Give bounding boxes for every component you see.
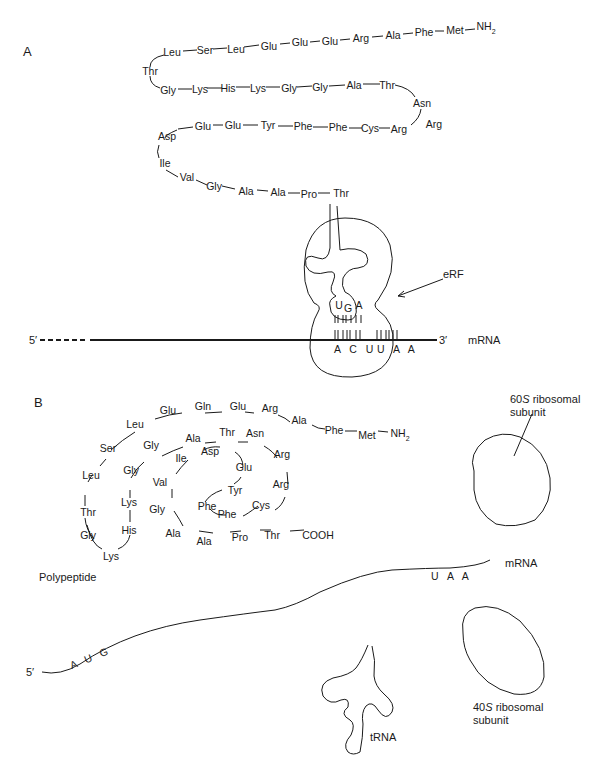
residue: Arg: [353, 33, 369, 44]
residue: Gly: [160, 85, 176, 96]
residue: Lys: [192, 84, 208, 95]
residue: Arg: [273, 479, 289, 490]
residue: Ala: [291, 415, 306, 426]
panel-b-label: B: [34, 395, 43, 410]
residue: His: [121, 525, 136, 536]
residue: Thr: [219, 427, 235, 438]
mrna-label: mRNA: [468, 334, 500, 347]
residue: Glu: [195, 121, 211, 132]
residue: Ser: [100, 443, 116, 454]
residue: Cys: [361, 123, 379, 134]
erf-base: G: [344, 303, 352, 314]
c-terminus: COOH: [302, 530, 334, 541]
large-subunit-label: 60S ribosomal subunit: [510, 393, 580, 419]
polypeptide-label: Polypeptide: [39, 571, 97, 584]
residue: Gly: [281, 83, 297, 94]
residue: Leu: [163, 47, 181, 58]
residue: Gly: [80, 530, 96, 541]
residue: Tyr: [228, 485, 243, 496]
erf-label: eRF: [443, 268, 464, 281]
residue: Thr: [142, 66, 158, 77]
five-prime-label: 5′: [29, 334, 37, 347]
residue: Glu: [292, 37, 308, 48]
residue: Glu: [322, 36, 338, 47]
panel-a-label: A: [23, 44, 32, 59]
codon-acu: A C U: [334, 343, 376, 355]
residue: Glu: [225, 120, 241, 131]
residue: Ala: [346, 80, 361, 91]
residue: Lys: [121, 497, 137, 508]
mrna-label-b: mRNA: [505, 557, 537, 570]
residue: Glu: [160, 405, 176, 416]
residue: Arg: [274, 449, 290, 460]
residue: Phe: [329, 122, 348, 133]
residue: Thr: [80, 507, 96, 518]
residue: Pro: [301, 189, 317, 200]
residue: Ala: [196, 536, 211, 547]
diagram-line-art: [0, 0, 606, 757]
small-subunit-label: 40S ribosomal subunit: [473, 701, 543, 727]
residue: Phe: [325, 425, 344, 436]
residue: Arg: [262, 403, 278, 414]
residue: Ile: [175, 453, 186, 464]
residue: Gly: [143, 440, 159, 451]
residue: Cys: [252, 500, 270, 511]
residue: Lys: [250, 83, 266, 94]
trna-label: tRNA: [370, 731, 396, 744]
stop-codon-uaa: U A A: [377, 343, 418, 355]
residue: Ala: [185, 433, 200, 444]
residue: Gly: [206, 181, 222, 192]
residue: Arg: [391, 124, 407, 135]
residue: Gly: [123, 465, 139, 476]
residue: Ala: [165, 528, 180, 539]
residue: Phe: [415, 27, 434, 38]
residue: Ser: [197, 45, 213, 56]
residue: Leu: [82, 470, 100, 481]
residue: Gln: [195, 401, 211, 412]
residue: Ile: [159, 158, 170, 169]
residue: Glu: [230, 401, 246, 412]
residue: Tyr: [261, 120, 276, 131]
five-prime-label-b: 5′: [26, 666, 34, 679]
residue: Glu: [261, 41, 277, 52]
residue: Val: [153, 477, 167, 488]
erf-base: A: [355, 300, 362, 311]
residue: Ala: [270, 187, 285, 198]
residue: Phe: [294, 121, 313, 132]
erf-base: U: [335, 300, 343, 311]
residue: Asn: [413, 98, 431, 109]
residue: Arg: [426, 119, 442, 130]
residue: Met: [358, 430, 376, 441]
n-terminus: NH2: [476, 21, 495, 34]
stop-codon-uaa-b: U A A: [431, 570, 472, 582]
residue: Met: [446, 25, 464, 36]
residue: Asp: [201, 446, 219, 457]
residue: Thr: [379, 80, 395, 91]
n-terminus: NH2: [390, 428, 409, 441]
residue: Asn: [246, 428, 264, 439]
residue: His: [220, 83, 235, 94]
residue: Ala: [238, 186, 253, 197]
residue: Ala: [385, 30, 400, 41]
residue: Leu: [227, 44, 245, 55]
residue: Leu: [126, 419, 144, 430]
residue: Phe: [218, 509, 237, 520]
residue: Glu: [236, 462, 252, 473]
residue: Gly: [312, 82, 328, 93]
residue: Thr: [264, 530, 280, 541]
residue: Val: [180, 172, 194, 183]
residue: Pro: [232, 532, 248, 543]
residue: Gly: [149, 504, 165, 515]
residue: Phe: [198, 501, 217, 512]
residue: Asp: [158, 131, 176, 142]
residue: Thr: [333, 188, 349, 199]
residue: Lys: [103, 551, 119, 562]
three-prime-label: 3′: [439, 334, 447, 347]
